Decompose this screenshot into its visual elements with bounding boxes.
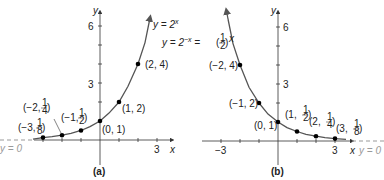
function-label: y = 2x: [152, 18, 179, 30]
function-label: y = 2−x = ( 12 ) x: [161, 32, 235, 51]
y-axis-label: y: [92, 5, 99, 16]
point-0: [98, 119, 103, 124]
point-2: [136, 62, 141, 67]
label-m1-2: (−1, 2): [229, 98, 258, 109]
asymptote-label: y = 0: [0, 143, 22, 154]
point-m2: [60, 133, 65, 138]
y-tick-3: 3: [283, 79, 289, 90]
svg-text:(3,: (3,: [336, 123, 348, 134]
x-tick-m3: −3: [215, 145, 227, 156]
svg-text:(−1,: (−1,: [61, 112, 79, 123]
svg-text:x: x: [228, 33, 235, 44]
label-3-eighth: (3, 18 ): [336, 118, 362, 137]
svg-text:): ): [332, 116, 335, 127]
x-axis-label: x: [169, 144, 176, 155]
label-2-4: (2, 4): [145, 59, 168, 70]
point-m2: [238, 63, 243, 68]
label-m1-half: (−1, 12 ): [61, 107, 87, 126]
panel-b: y 6 3 −3 3 x y = 0 y = 2−x = ( 12 ) x (−…: [161, 5, 384, 177]
label-m2-4: (−2, 4): [209, 60, 238, 71]
label-0-1: (0, 1): [254, 120, 277, 131]
label-m2-quarter: (−2, 14 ): [23, 97, 50, 116]
exponential-graphs: y 6 3 3 x y = 0 y = 2x (2, 4) (1, 2) (0,…: [0, 0, 384, 180]
svg-text:): ): [42, 122, 45, 133]
label-2-quarter: (2, 14 ): [309, 111, 335, 130]
point-2: [314, 134, 319, 139]
caption-a: (a): [93, 166, 105, 177]
svg-text:): ): [225, 37, 228, 48]
x-axis-label: x: [349, 145, 356, 156]
svg-text:(−2,: (−2,: [23, 102, 41, 113]
curve-arrow: [227, 11, 229, 19]
x-tick-3: 3: [332, 145, 338, 156]
data-points: [41, 62, 141, 140]
y-tick-3: 3: [88, 79, 94, 90]
label-m3-eighth: (−3, 18 ): [18, 117, 45, 136]
svg-text:(1,: (1,: [285, 109, 297, 120]
caption-b: (b): [271, 166, 284, 177]
pointer-line: [54, 119, 61, 133]
svg-text:): ): [84, 112, 87, 123]
point-3: [333, 136, 338, 141]
svg-text:): ): [47, 102, 50, 113]
svg-text:): ): [359, 123, 362, 134]
label-1-half: (1, 12 ): [285, 104, 311, 123]
label-1-2: (1, 2): [122, 103, 145, 114]
asymptote-label: y = 0: [358, 145, 381, 156]
svg-text:(2,: (2,: [309, 116, 321, 127]
point-1: [117, 100, 122, 105]
point-1: [295, 129, 300, 134]
svg-text:(−3,: (−3,: [18, 122, 36, 133]
y-tick-6: 6: [283, 22, 289, 33]
point-m1: [79, 128, 84, 133]
svg-text:y = 2−x =: y = 2−x =: [161, 36, 200, 48]
y-axis-label: y: [270, 5, 277, 16]
label-0-1: (0, 1): [102, 124, 125, 135]
x-tick-3: 3: [154, 144, 160, 155]
y-tick-6: 6: [88, 21, 94, 32]
panel-a: y 6 3 3 x y = 0 y = 2x (2, 4) (1, 2) (0,…: [0, 5, 179, 177]
